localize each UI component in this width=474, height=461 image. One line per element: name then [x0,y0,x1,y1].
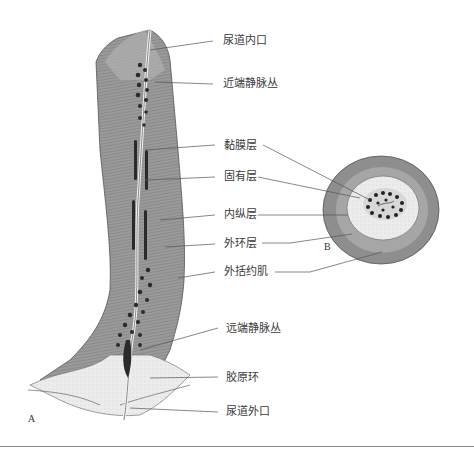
label-lamina-propria: 固有层 [224,171,257,183]
label-external-sphincter: 外括约肌 [224,266,268,278]
label-internal-urethral-orifice: 尿道内口 [223,35,267,47]
label-external-urethral-orifice: 尿道外口 [226,406,270,418]
label-collagen-ring: 胶原环 [226,372,259,384]
panel-label-a: A [28,413,35,424]
urethra-anatomy-illustration [0,0,474,461]
longitudinal-section-a [28,30,190,420]
label-proximal-venous-plexus: 近端静脉丛 [223,78,278,90]
bottom-divider [0,446,474,447]
label-inner-longitudinal-layer: 内纵层 [224,209,257,221]
label-distal-venous-plexus: 远端静脉丛 [226,323,281,335]
label-outer-circular-layer: 外环层 [224,238,257,250]
label-mucosa: 黏膜层 [224,140,257,152]
cross-section-b [323,156,439,264]
panel-label-b: B [324,241,331,252]
